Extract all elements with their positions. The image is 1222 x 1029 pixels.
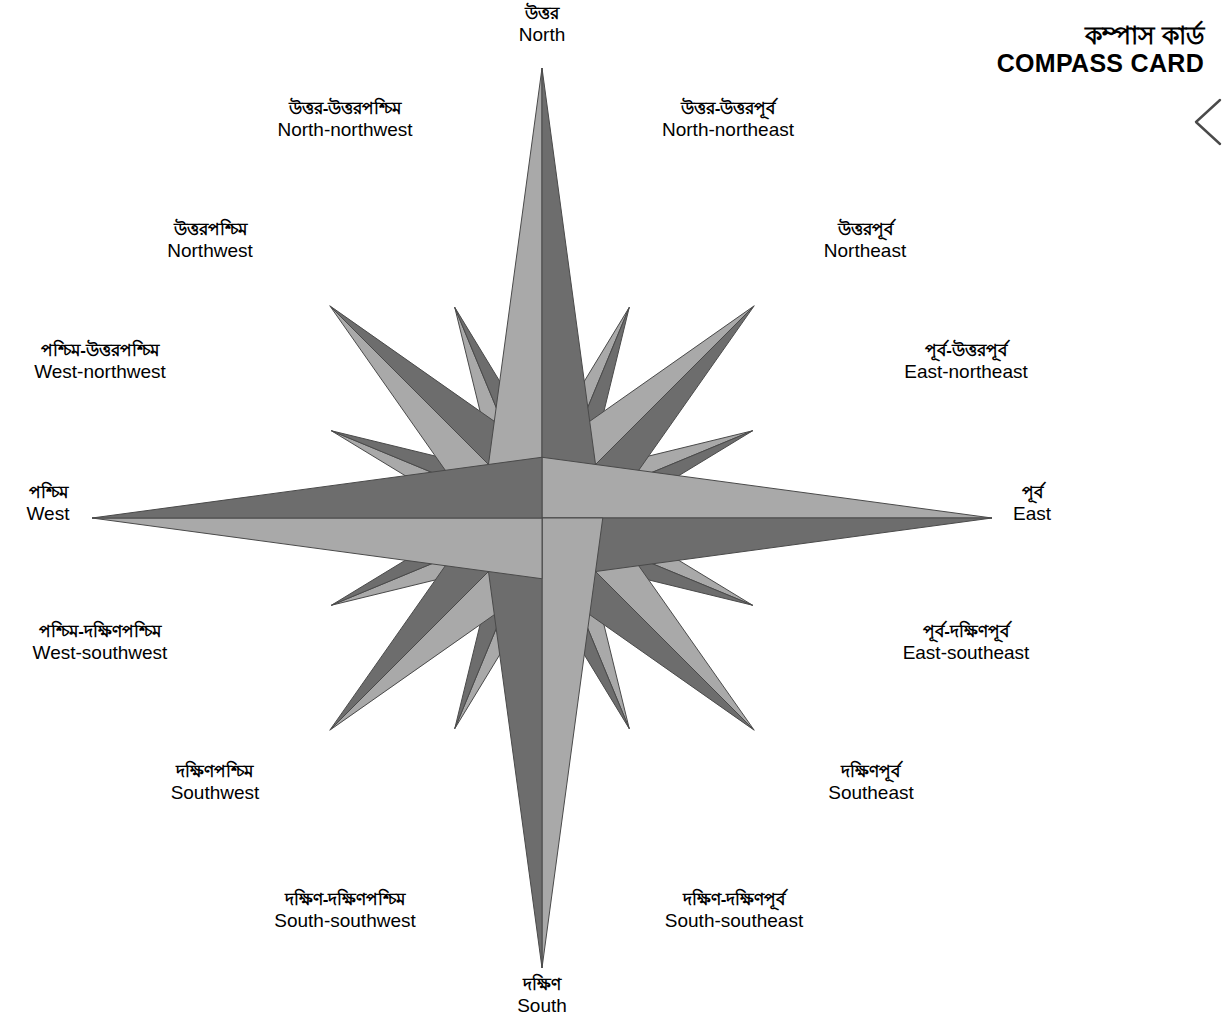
direction-label-latin: South — [517, 995, 567, 1016]
direction-label-latin: East — [1013, 503, 1051, 524]
direction-label-latin: Northwest — [167, 240, 253, 261]
compass-card-page: উত্তরNorthউত্তর-উত্তরপূর্বNorth-northeas… — [0, 0, 1222, 1029]
direction-label-east: পূর্বEast — [1013, 483, 1051, 524]
direction-label-east-northeast: পূর্ব-উত্তরপূর্বEast-northeast — [904, 341, 1028, 382]
compass-point-north — [481, 68, 603, 518]
direction-label-latin: South-southwest — [274, 910, 416, 931]
direction-label-latin: Southwest — [171, 782, 260, 803]
direction-label-north-northwest: উত্তর-উত্তরপশ্চিমNorth-northwest — [277, 99, 412, 140]
direction-label-west-southwest: পশ্চিম-দক্ষিণপশ্চিমWest-southwest — [33, 622, 168, 663]
direction-label-latin: Northeast — [824, 240, 906, 261]
direction-label-latin: Southeast — [828, 782, 914, 803]
direction-label-latin: North-northeast — [662, 119, 794, 140]
direction-label-native: পূর্ব — [1013, 483, 1051, 502]
direction-label-northwest: উত্তরপশ্চিমNorthwest — [167, 220, 253, 261]
direction-label-native: পশ্চিম — [27, 483, 70, 502]
compass-point-east — [542, 457, 992, 579]
direction-label-native: দক্ষিণ-দক্ষিণপূর্ব — [665, 890, 803, 909]
direction-label-native: পূর্ব-দক্ষিণপূর্ব — [903, 622, 1030, 641]
direction-label-latin: South-southeast — [665, 910, 803, 931]
direction-label-northeast: উত্তরপূর্বNortheast — [824, 220, 906, 261]
direction-label-native: পশ্চিম-দক্ষিণপশ্চিম — [33, 622, 168, 641]
direction-label-west-northwest: পশ্চিম-উত্তরপশ্চিমWest-northwest — [34, 341, 166, 382]
direction-label-native: দক্ষিণপশ্চিম — [171, 762, 260, 781]
direction-label-latin: West-southwest — [33, 642, 168, 663]
direction-label-latin: North-northwest — [277, 119, 412, 140]
direction-label-south-southeast: দক্ষিণ-দক্ষিণপূর্বSouth-southeast — [665, 890, 803, 931]
direction-label-latin: East-northeast — [904, 361, 1028, 382]
direction-label-native: দক্ষিণপূর্ব — [828, 762, 914, 781]
direction-label-native: উত্তরপশ্চিম — [167, 220, 253, 239]
direction-label-north: উত্তরNorth — [519, 4, 565, 45]
direction-label-north-northeast: উত্তর-উত্তরপূর্বNorth-northeast — [662, 99, 794, 140]
compass-point-south — [481, 518, 603, 968]
direction-label-native: পশ্চিম-উত্তরপশ্চিম — [34, 341, 166, 360]
page-title-native: কম্পাস কার্ড — [997, 22, 1204, 48]
direction-label-latin: West-northwest — [34, 361, 166, 382]
direction-label-southeast: দক্ষিণপূর্বSoutheast — [828, 762, 914, 803]
direction-label-native: দক্ষিণ-দক্ষিণপশ্চিম — [274, 890, 416, 909]
direction-label-latin: West — [27, 503, 70, 524]
direction-label-native: উত্তর — [519, 4, 565, 23]
page-title-latin: COMPASS CARD — [997, 50, 1204, 76]
direction-label-native: দক্ষিণ — [517, 975, 567, 994]
direction-label-south-southwest: দক্ষিণ-দক্ষিণপশ্চিমSouth-southwest — [274, 890, 416, 931]
direction-label-latin: East-southeast — [903, 642, 1030, 663]
direction-label-south: দক্ষিণSouth — [517, 975, 567, 1016]
direction-label-west: পশ্চিমWest — [27, 483, 70, 524]
direction-label-latin: North — [519, 24, 565, 45]
direction-label-native: উত্তর-উত্তরপূর্ব — [662, 99, 794, 118]
direction-label-east-southeast: পূর্ব-দক্ষিণপূর্বEast-southeast — [903, 622, 1030, 663]
direction-label-southwest: দক্ষিণপশ্চিমSouthwest — [171, 762, 260, 803]
direction-label-native: উত্তর-উত্তরপশ্চিম — [277, 99, 412, 118]
chevron-left-icon — [1190, 96, 1222, 148]
direction-label-native: পূর্ব-উত্তরপূর্ব — [904, 341, 1028, 360]
page-title-block: কম্পাস কার্ড COMPASS CARD — [997, 22, 1204, 77]
compass-point-west — [92, 457, 542, 579]
direction-label-native: উত্তরপূর্ব — [824, 220, 906, 239]
